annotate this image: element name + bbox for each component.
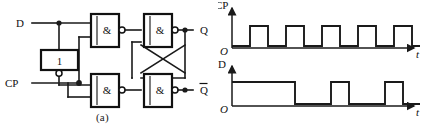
nand3-output-bubble-icon xyxy=(119,87,125,93)
nand2-glyph: & xyxy=(156,24,165,36)
cp-origin-label: O xyxy=(220,45,228,57)
circuit-svg: 1 & & & xyxy=(0,0,218,130)
output-label-qbar: Q xyxy=(200,84,208,96)
junction-dot-qbar xyxy=(182,87,187,92)
gate-nand3: & xyxy=(91,74,125,107)
circuit-diagram-panel: 1 & & & xyxy=(0,0,218,130)
cp-axis-label: CP xyxy=(218,0,228,11)
nand2-output-bubble-icon xyxy=(172,27,178,33)
junction-dot-cp xyxy=(76,80,82,86)
d-origin-label: O xyxy=(220,103,228,115)
inverter-glyph: 1 xyxy=(57,55,63,67)
gate-nand1: & xyxy=(91,14,125,47)
nand3-glyph: & xyxy=(103,84,112,96)
nand1-glyph: & xyxy=(103,24,112,36)
panel-caption-a: (a) xyxy=(96,111,109,123)
waveforms-panel: CP O t D O t (b) xyxy=(218,0,436,130)
d-time-axis-label: t xyxy=(416,106,420,118)
junction-dot-q xyxy=(182,27,187,32)
input-label-cp: CP xyxy=(5,77,18,89)
output-label-q: Q xyxy=(200,24,208,36)
d-waveform-trace xyxy=(232,82,420,104)
junction-dot-d xyxy=(56,20,61,25)
cp-chart: CP O t xyxy=(218,0,420,60)
cp-time-axis-label: t xyxy=(416,48,420,60)
gate-nand2: & xyxy=(144,14,178,47)
nand4-output-bubble-icon xyxy=(172,87,178,93)
d-chart: D O t xyxy=(218,58,420,118)
nand1-output-bubble-icon xyxy=(119,27,125,33)
gate-nand4: & xyxy=(144,74,178,107)
input-label-d: D xyxy=(16,17,24,29)
waveforms-svg: CP O t D O t xyxy=(218,0,436,130)
d-axis-label: D xyxy=(218,58,226,70)
gate-inverter: 1 xyxy=(41,50,78,76)
nand4-glyph: & xyxy=(156,84,165,96)
inverter-output-bubble-icon xyxy=(56,70,62,76)
figure-root: 1 & & & xyxy=(0,0,436,130)
cp-waveform-trace xyxy=(232,26,420,46)
